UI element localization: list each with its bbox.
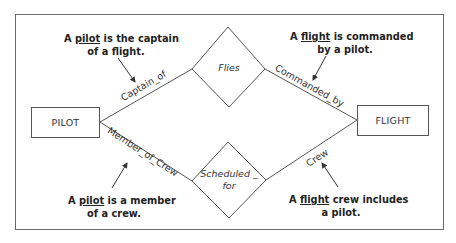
relationship-flies-label: Flies [198,62,260,74]
entity-pilot-label: PILOT [52,117,80,128]
note-commanded: A flight is commanded by a pilot. [290,30,400,56]
entity-pilot: PILOT [31,107,100,138]
note-crew: A flight crew includes a pilot. [289,193,393,219]
entity-flight-label: FLIGHT [375,115,410,126]
crew-arrow [322,163,338,187]
relationship-scheduled-label: Scheduled _ for [196,168,262,192]
captain-arrow [118,58,135,82]
commanded-by-line [265,69,357,120]
note-captain: A pilot is the captain of a flight. [64,32,168,58]
note-member: A pilot is a member of a crew. [68,194,160,220]
crew-line [266,120,357,180]
commanded-arrow [313,56,326,80]
member-arrow [112,163,127,188]
er-diagram: PILOT FLIGHT Flies Scheduled _ for Capta… [0,0,456,243]
entity-flight: FLIGHT [357,105,429,136]
